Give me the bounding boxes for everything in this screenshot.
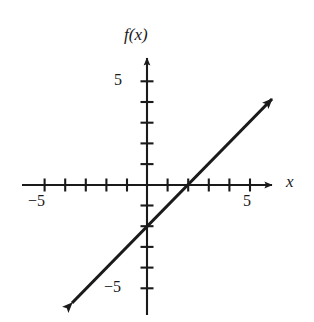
x-tick-label-5: 5 bbox=[243, 193, 251, 209]
y-axis-title: f(x) bbox=[124, 26, 148, 43]
y-tick-label-minus-5: −5 bbox=[104, 279, 121, 295]
function-line-series bbox=[72, 99, 272, 303]
x-tick-label-minus-5: −5 bbox=[28, 193, 45, 209]
function-line bbox=[72, 99, 272, 303]
graph-figure: f(x) x 5 −5 −5 5 bbox=[0, 0, 314, 322]
coordinate-plane bbox=[0, 0, 314, 322]
y-tick-label-5: 5 bbox=[114, 72, 122, 88]
y-axis bbox=[141, 58, 154, 315]
x-axis-title: x bbox=[286, 173, 294, 190]
